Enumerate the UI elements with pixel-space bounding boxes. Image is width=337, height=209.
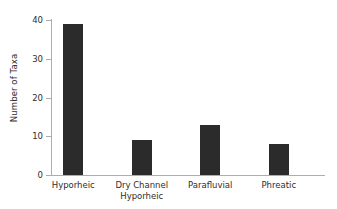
bar-chart-figure: Number of Taxa 010203040 HyporheicDry Ch… [0,0,337,209]
y-axis-tick-label: 0 [3,170,43,180]
bar [132,140,152,175]
y-axis-title: Number of Taxa [2,0,26,175]
x-axis-tick-label: Hyporheic [39,180,108,191]
bar [200,125,220,175]
x-axis-line [51,175,325,176]
x-axis-tick-label: Parafluvial [176,180,245,191]
bar [269,144,289,175]
x-axis-tick-label: Phreatic [245,180,314,191]
y-axis-tick-label: 40 [3,15,43,25]
y-axis-tick-label: 30 [3,54,43,64]
bar [63,24,83,175]
y-axis-tick [46,175,51,176]
x-axis-tick-label: Dry Channel Hyporheic [108,180,177,202]
y-axis-tick-label: 20 [3,93,43,103]
y-axis-tick-label: 10 [3,131,43,141]
plot-area [51,20,325,175]
